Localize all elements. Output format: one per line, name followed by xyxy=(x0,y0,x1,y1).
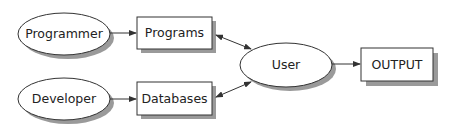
node-developer: Developer xyxy=(18,78,110,120)
node-programs-label: Programs xyxy=(145,25,204,40)
node-databases: Databases xyxy=(137,82,212,115)
diagram-canvas: Programmer Developer Programs Databases … xyxy=(0,0,452,140)
node-programmer: Programmer xyxy=(18,13,110,55)
node-user: User xyxy=(240,43,332,87)
node-programmer-label: Programmer xyxy=(25,26,104,41)
node-databases-label: Databases xyxy=(141,91,207,106)
node-programs: Programs xyxy=(137,17,212,49)
edge-programs-user xyxy=(216,35,251,49)
edge-databases-user xyxy=(216,82,251,97)
node-user-label: User xyxy=(272,57,301,72)
node-output: OUTPUT xyxy=(361,48,433,81)
node-developer-label: Developer xyxy=(32,91,97,106)
node-output-label: OUTPUT xyxy=(372,57,423,72)
